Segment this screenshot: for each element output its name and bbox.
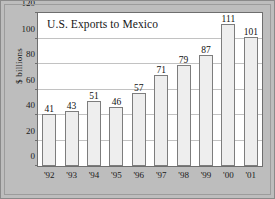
y-tick-label: 80 (26, 49, 35, 59)
bar: 51 (87, 101, 101, 166)
bar: 79 (177, 65, 191, 166)
bar: 71 (154, 75, 168, 166)
y-tick-label: 20 (26, 126, 35, 136)
y-tick-mark (35, 89, 38, 90)
bar-value-label: 79 (179, 55, 189, 65)
bar-value-label: 46 (112, 97, 122, 107)
x-tick-label: '97 (156, 170, 167, 180)
x-tick-label: '96 (133, 170, 144, 180)
bar-value-label: 41 (44, 104, 54, 114)
bar-value-label: 111 (222, 14, 236, 24)
bar-value-label: 51 (89, 91, 99, 101)
x-tick-label: '99 (201, 170, 212, 180)
bar: 101 (244, 37, 258, 166)
y-tick-label: 0 (31, 151, 36, 161)
plot-area: U.S. Exports to Mexico 020406080100120 4… (37, 12, 263, 167)
y-tick-mark (35, 114, 38, 115)
y-tick-label: 100 (22, 24, 36, 34)
bar: 46 (109, 107, 123, 166)
y-axis-title: $ billions (14, 21, 24, 111)
bar-value-label: 71 (156, 65, 166, 75)
bar: 111 (221, 24, 235, 166)
x-tick-label: '98 (178, 170, 189, 180)
x-tick-label: '00 (223, 170, 234, 180)
y-tick-mark (35, 12, 38, 13)
x-tick-label: '01 (245, 170, 256, 180)
y-tick-label: 40 (26, 100, 35, 110)
bar-value-label: 87 (201, 45, 211, 55)
bar: 87 (199, 55, 213, 166)
x-tick-label: '92 (44, 170, 55, 180)
y-tick-label: 120 (22, 0, 36, 8)
y-tick-mark (35, 63, 38, 64)
y-tick-mark (35, 165, 38, 166)
bar: 41 (42, 114, 56, 166)
x-tick-label: '93 (66, 170, 77, 180)
y-tick-mark (35, 38, 38, 39)
chart-figure: $ billions U.S. Exports to Mexico 020406… (0, 0, 275, 199)
x-tick-label: '94 (89, 170, 100, 180)
bar: 57 (132, 93, 146, 166)
y-tick-mark (35, 140, 38, 141)
bar-value-label: 57 (134, 83, 144, 93)
bar-value-label: 101 (244, 27, 258, 37)
y-tick-label: 60 (26, 75, 35, 85)
bar: 43 (65, 111, 79, 166)
chart-title: U.S. Exports to Mexico (47, 18, 158, 30)
bar-value-label: 43 (67, 101, 77, 111)
x-tick-label: '95 (111, 170, 122, 180)
